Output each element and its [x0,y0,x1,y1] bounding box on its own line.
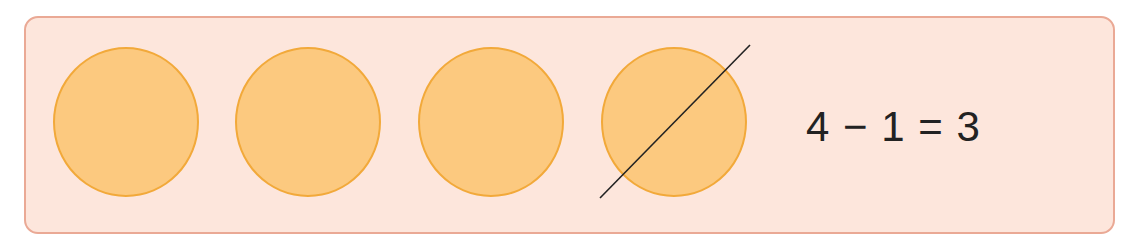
counter-3 [418,47,564,197]
counter-2 [235,47,381,197]
equation-text: 4 − 1 = 3 [806,102,981,152]
counter-1 [53,47,199,197]
counter-4-crossed [601,47,747,197]
